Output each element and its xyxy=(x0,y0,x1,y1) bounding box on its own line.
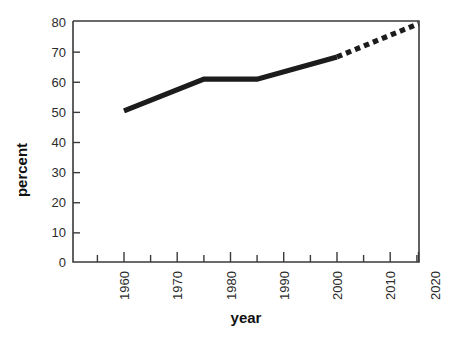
y-tick-label: 0 xyxy=(59,255,66,270)
x-axis-major-ticks xyxy=(124,252,419,262)
chart-container: 0 10 20 30 40 50 60 70 80 xyxy=(0,0,459,340)
y-tick-label: 70 xyxy=(52,45,66,60)
y-axis-ticks xyxy=(73,52,80,233)
y-tick-label: 50 xyxy=(52,105,66,120)
series-observed-line xyxy=(124,57,337,111)
x-tick-label: 1970 xyxy=(170,271,185,300)
x-tick-label: 1980 xyxy=(224,271,239,300)
line-chart: 0 10 20 30 40 50 60 70 80 xyxy=(0,0,459,340)
y-tick-label: 20 xyxy=(52,195,66,210)
x-tick-label: 2000 xyxy=(330,271,345,300)
y-tick-label: 80 xyxy=(52,15,66,30)
x-axis-title: year xyxy=(231,309,262,326)
y-axis-title: percent xyxy=(13,143,30,197)
x-tick-label: 2020 xyxy=(428,271,443,300)
y-tick-label: 60 xyxy=(52,75,66,90)
x-tick-label: 2010 xyxy=(383,271,398,300)
y-axis-tick-labels: 0 10 20 30 40 50 60 70 80 xyxy=(52,15,66,270)
x-tick-label: 1990 xyxy=(277,271,292,300)
series-projected-line xyxy=(337,24,419,57)
data-series-group xyxy=(124,24,419,111)
y-tick-label: 10 xyxy=(52,225,66,240)
x-tick-label: 1960 xyxy=(117,271,132,300)
x-axis-tick-labels: 1960 1970 1980 1990 2000 2010 2020 xyxy=(117,271,443,300)
plot-frame xyxy=(73,21,419,262)
x-axis-minor-ticks xyxy=(97,255,417,262)
y-tick-label: 40 xyxy=(52,135,66,150)
y-tick-label: 30 xyxy=(52,165,66,180)
